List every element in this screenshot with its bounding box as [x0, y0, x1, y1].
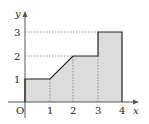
graph-canvas: y x O 1 2 3 4 1 2 3 — [0, 0, 149, 124]
origin-label: O — [16, 105, 24, 116]
y-tick-label: 2 — [14, 51, 20, 62]
x-tick-label: 4 — [119, 105, 125, 116]
x-tick-label: 2 — [70, 105, 76, 116]
x-tick-label: 1 — [47, 105, 53, 116]
x-axis-label: x — [133, 105, 139, 116]
x-tick-label: 3 — [95, 105, 101, 116]
y-axis-arrow-icon — [23, 11, 28, 17]
y-tick-label: 1 — [14, 74, 20, 85]
x-axis-arrow-icon — [133, 100, 139, 105]
shaded-area — [25, 32, 122, 102]
piecewise-graph-figure: y x O 1 2 3 4 1 2 3 — [0, 0, 149, 124]
y-tick-label: 3 — [14, 27, 20, 38]
y-axis-label: y — [14, 8, 21, 19]
